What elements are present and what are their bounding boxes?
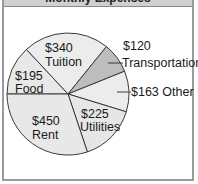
pie-chart: $340 Tuition $195 Food $450 Rent $225 Ut… — [0, 0, 198, 184]
label-food-name: Food — [15, 82, 44, 96]
label-tuition-amount: $340 — [45, 41, 73, 55]
label-tuition-name: Tuition — [45, 55, 82, 69]
label-transportation-amount: $120 — [123, 39, 151, 53]
label-transportation-name: Transportation — [122, 56, 198, 70]
label-rent-amount: $450 — [32, 114, 60, 128]
label-rent-name: Rent — [32, 128, 59, 142]
label-other: $163 Other — [131, 85, 194, 99]
label-food-amount: $195 — [15, 69, 43, 83]
label-utilities-name: Utilities — [80, 120, 120, 134]
label-utilities-amount: $225 — [81, 107, 109, 121]
